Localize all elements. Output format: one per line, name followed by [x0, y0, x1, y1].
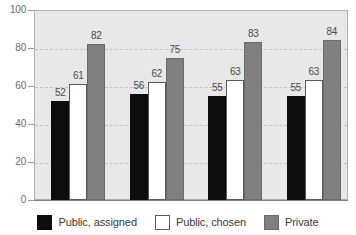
y-tick-label: 0	[0, 195, 26, 205]
y-tick-label: 60	[0, 81, 26, 91]
y-tick-label: 40	[0, 119, 26, 129]
legend-item[interactable]: Public, assigned	[37, 215, 137, 230]
bars-layer: 526182566275556383556384	[34, 10, 348, 200]
bar-value-label: 82	[83, 31, 109, 41]
bar-value-label: 75	[162, 45, 188, 55]
legend-label: Private	[285, 216, 319, 228]
y-tick-label: 20	[0, 157, 26, 167]
bar	[166, 58, 184, 201]
bar	[51, 101, 69, 200]
y-tick-mark	[28, 48, 34, 49]
chart-legend: Public, assignedPublic, chosenPrivate	[0, 209, 356, 235]
y-tick-mark	[28, 162, 34, 163]
legend-label: Public, chosen	[176, 216, 246, 228]
bar-value-label: 84	[319, 27, 345, 37]
bar	[148, 82, 166, 200]
bar	[208, 96, 226, 201]
bar	[244, 42, 262, 200]
bar	[130, 94, 148, 200]
y-tick-mark	[28, 200, 34, 201]
y-tick-label: 80	[0, 43, 26, 53]
y-tick-mark	[28, 124, 34, 125]
legend-swatch-icon	[155, 215, 170, 230]
legend-item[interactable]: Private	[264, 215, 319, 230]
legend-swatch-icon	[37, 215, 52, 230]
legend-swatch-icon	[264, 215, 279, 230]
bar	[305, 80, 323, 200]
x-axis-baseline	[34, 200, 348, 201]
bar-value-label: 83	[240, 29, 266, 39]
legend-label: Public, assigned	[58, 216, 137, 228]
y-tick-mark	[28, 10, 34, 11]
legend-item[interactable]: Public, chosen	[155, 215, 246, 230]
bar-chart: 020406080100 526182566275556383556384 Pu…	[0, 0, 356, 235]
y-tick-mark	[28, 86, 34, 87]
bar	[226, 80, 244, 200]
bar	[287, 96, 305, 201]
y-tick-label: 100	[0, 5, 26, 15]
bar	[69, 84, 87, 200]
bar	[87, 44, 105, 200]
bar	[323, 40, 341, 200]
y-axis: 020406080100	[0, 0, 26, 205]
